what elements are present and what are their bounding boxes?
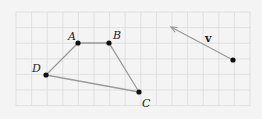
vector-shaft	[172, 27, 233, 60]
point-label-a: A	[67, 30, 76, 43]
vector-label: v	[204, 32, 212, 45]
point-label-b: B	[112, 29, 121, 42]
quadrilateral-abcd: ABCD	[31, 29, 151, 110]
point-a	[75, 40, 80, 45]
point-d	[43, 72, 48, 77]
point-b	[106, 40, 111, 45]
vector-tail-point	[230, 57, 235, 62]
point-c	[136, 89, 141, 94]
point-label-c: C	[142, 97, 151, 110]
point-label-d: D	[31, 62, 41, 75]
geometry-diagram: ABCD v	[0, 0, 262, 119]
